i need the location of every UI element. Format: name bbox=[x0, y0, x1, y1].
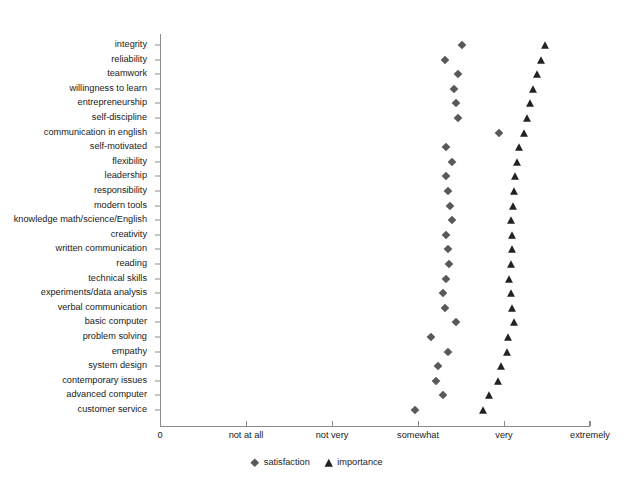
y-axis-tick bbox=[155, 45, 160, 46]
y-axis-tick bbox=[155, 118, 160, 119]
data-point-satisfaction bbox=[443, 245, 453, 255]
data-point-importance bbox=[514, 143, 523, 152]
data-point-satisfaction bbox=[441, 274, 451, 284]
y-axis-tick bbox=[155, 278, 160, 279]
y-axis-tick bbox=[155, 322, 160, 323]
y-axis-tick bbox=[155, 103, 160, 104]
data-point-satisfaction bbox=[440, 55, 450, 65]
y-axis-tick bbox=[155, 176, 160, 177]
diamond-marker-icon bbox=[250, 458, 260, 468]
y-axis-tick bbox=[155, 205, 160, 206]
data-point-satisfaction bbox=[447, 215, 457, 225]
data-point-satisfaction bbox=[438, 288, 448, 298]
data-point-satisfaction bbox=[442, 172, 452, 182]
y-axis-tick bbox=[155, 293, 160, 294]
data-point-importance bbox=[519, 128, 528, 137]
data-point-importance bbox=[541, 41, 550, 50]
data-point-importance bbox=[504, 333, 513, 342]
data-point-satisfaction bbox=[426, 332, 436, 342]
data-point-importance bbox=[510, 318, 519, 327]
y-axis-tick bbox=[155, 220, 160, 221]
data-point-importance bbox=[506, 216, 515, 225]
data-point-importance bbox=[523, 114, 532, 123]
x-axis-label: somewhat bbox=[397, 431, 439, 440]
data-point-satisfaction bbox=[451, 99, 461, 109]
data-point-satisfaction bbox=[443, 347, 453, 357]
data-point-importance bbox=[507, 245, 516, 254]
x-axis-label: 0 bbox=[157, 431, 162, 440]
data-point-satisfaction bbox=[433, 361, 443, 371]
x-axis-label: extremely bbox=[570, 431, 610, 440]
y-axis-tick bbox=[155, 307, 160, 308]
y-axis-tick bbox=[155, 88, 160, 89]
y-axis-tick bbox=[155, 234, 160, 235]
data-point-satisfaction bbox=[448, 157, 458, 167]
data-point-importance bbox=[506, 289, 515, 298]
data-point-importance bbox=[493, 376, 502, 385]
legend-label: satisfaction bbox=[264, 458, 310, 467]
legend-item-importance[interactable]: importance bbox=[324, 458, 383, 468]
data-point-importance bbox=[536, 55, 545, 64]
triangle-marker-icon bbox=[324, 458, 334, 468]
data-point-importance bbox=[505, 274, 514, 283]
y-axis-tick bbox=[155, 337, 160, 338]
data-point-importance bbox=[485, 391, 494, 400]
data-point-satisfaction bbox=[445, 201, 455, 211]
data-point-importance bbox=[508, 201, 517, 210]
y-axis-tick bbox=[155, 161, 160, 162]
y-axis-tick bbox=[155, 132, 160, 133]
data-point-satisfaction bbox=[438, 391, 448, 401]
y-axis-tick bbox=[155, 264, 160, 265]
x-axis-label: not at all bbox=[229, 431, 264, 440]
y-axis-tick bbox=[155, 380, 160, 381]
data-point-satisfaction bbox=[431, 376, 441, 386]
data-point-satisfaction bbox=[442, 230, 452, 240]
data-point-importance bbox=[532, 70, 541, 79]
data-point-satisfaction bbox=[454, 69, 464, 79]
y-axis-tick bbox=[155, 74, 160, 75]
y-axis-tick bbox=[155, 395, 160, 396]
data-point-importance bbox=[529, 84, 538, 93]
data-point-importance bbox=[507, 303, 516, 312]
data-point-importance bbox=[525, 99, 534, 108]
data-point-satisfaction bbox=[440, 303, 450, 313]
data-point-satisfaction bbox=[453, 113, 463, 123]
legend-label: importance bbox=[337, 458, 382, 467]
scatter-chart: integrityreliabilityteamworkwillingness … bbox=[0, 0, 633, 491]
data-point-importance bbox=[511, 172, 520, 181]
y-axis-tick bbox=[155, 410, 160, 411]
data-point-satisfaction bbox=[411, 405, 421, 415]
data-point-importance bbox=[502, 347, 511, 356]
legend-item-satisfaction[interactable]: satisfaction bbox=[250, 458, 309, 468]
x-axis-label: very bbox=[495, 431, 512, 440]
data-point-satisfaction bbox=[443, 186, 453, 196]
plot-area bbox=[0, 0, 633, 430]
data-point-importance bbox=[506, 260, 515, 269]
y-axis-tick bbox=[155, 147, 160, 148]
data-point-importance bbox=[510, 187, 519, 196]
y-axis-tick bbox=[155, 351, 160, 352]
y-axis-tick bbox=[155, 59, 160, 60]
x-axis-label: not very bbox=[316, 431, 349, 440]
y-axis-tick bbox=[155, 191, 160, 192]
data-point-satisfaction bbox=[451, 318, 461, 328]
data-point-satisfaction bbox=[444, 259, 454, 269]
data-point-satisfaction bbox=[442, 142, 452, 152]
y-axis-tick bbox=[155, 366, 160, 367]
data-point-importance bbox=[497, 362, 506, 371]
data-point-satisfaction bbox=[449, 84, 459, 94]
data-point-importance bbox=[512, 157, 521, 166]
data-point-satisfaction bbox=[457, 40, 467, 50]
data-point-satisfaction bbox=[494, 128, 504, 138]
y-axis-tick bbox=[155, 249, 160, 250]
data-point-importance bbox=[507, 230, 516, 239]
chart-legend: satisfactionimportance bbox=[0, 458, 633, 468]
data-point-importance bbox=[479, 406, 488, 415]
